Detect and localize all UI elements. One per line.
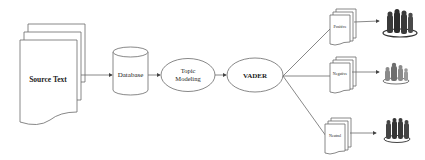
positive-label: Positive <box>334 24 347 29</box>
topic-modeling-label-line2: Modeling <box>175 75 201 82</box>
neutral-label: Neutral <box>329 133 342 138</box>
sentiment-pipeline-diagram: Source Text Database Topic Modeling VADE… <box>0 0 425 160</box>
database-label: Database <box>118 71 144 79</box>
source-text-document: Source Text <box>20 24 85 125</box>
people-group-icon <box>383 63 409 84</box>
line-vader-to-neutral <box>283 76 326 136</box>
arrow-positive-to-people <box>354 21 379 22</box>
database-cylinder: Database <box>113 47 148 95</box>
people-group-icon <box>383 9 417 37</box>
vader-label: VADER <box>243 72 268 80</box>
people-group-icon <box>384 118 410 143</box>
line-vader-to-positive <box>283 28 331 76</box>
negative-document: Negative <box>330 57 356 93</box>
neutral-document: Neutral <box>325 118 351 154</box>
positive-document: Positive <box>330 9 356 45</box>
vader-node: VADER <box>227 58 283 92</box>
source-text-label: Source Text <box>29 75 67 84</box>
negative-label: Negative <box>333 71 348 76</box>
topic-modeling-label-line1: Topic <box>181 67 196 74</box>
topic-modeling-node: Topic Modeling <box>161 59 215 92</box>
